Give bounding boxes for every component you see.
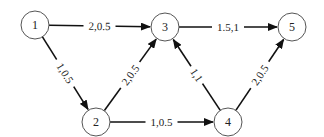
edge-1-to-2: 1,0.5 — [42, 37, 88, 109]
edge-label: 1.5,1 — [217, 21, 239, 33]
edge-2-to-4: 1,0.5 — [110, 116, 213, 128]
edge-4-to-3: 1,1 — [173, 40, 220, 111]
node-3: 3 — [151, 13, 179, 41]
node-4: 4 — [214, 108, 242, 136]
edge-1-to-3: 2,0.5 — [49, 20, 150, 32]
node-label: 4 — [225, 115, 231, 129]
node-2: 2 — [82, 108, 110, 136]
node-label: 2 — [93, 115, 99, 129]
node-label: 1 — [32, 18, 38, 32]
node-1: 1 — [21, 11, 49, 39]
edge-label: 2,0.5 — [88, 20, 111, 32]
edge-4-to-5: 2,0.5 — [236, 39, 284, 110]
edge-3-to-5: 1.5,1 — [179, 21, 277, 33]
edge-2-to-3: 2,0.5 — [104, 39, 156, 111]
node-label: 5 — [289, 20, 295, 34]
edge-label: 1,0.5 — [151, 116, 174, 128]
node-label: 3 — [162, 20, 168, 34]
node-5: 5 — [278, 13, 306, 41]
network-diagram: 2,0.51.5,11,0.52,0.51,0.51,12,0.5 12345 — [0, 0, 324, 137]
